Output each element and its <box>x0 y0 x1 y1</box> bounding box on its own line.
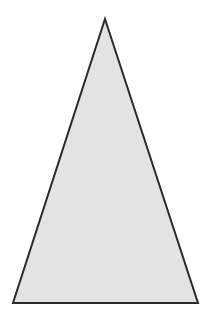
triangle-diagram <box>0 0 212 320</box>
figure-canvas <box>0 0 212 320</box>
